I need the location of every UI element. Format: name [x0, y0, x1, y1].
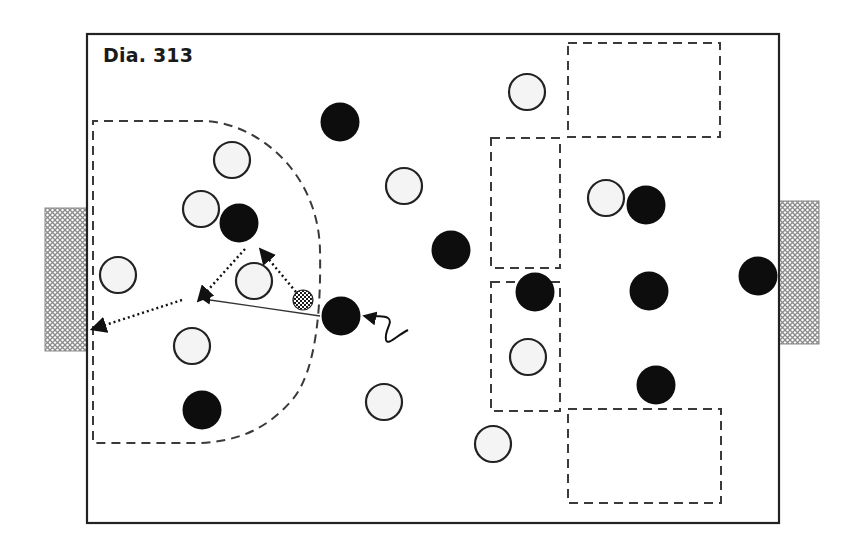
ball-icon [293, 290, 313, 310]
black-player-icon [321, 103, 360, 142]
white-player-icon [214, 142, 250, 178]
black-player-icon [183, 391, 222, 430]
white-player-icon [509, 74, 545, 110]
white-player-icon [386, 168, 422, 204]
white-player-icon [174, 328, 210, 364]
white-player-icon [366, 384, 402, 420]
black-player-icon [637, 366, 676, 405]
right-goal [779, 201, 819, 344]
white-player-icon [588, 180, 624, 216]
white-player-icon [100, 257, 136, 293]
white-player-icon [183, 191, 219, 227]
left-goal [45, 208, 87, 351]
diagram-title: Dia. 313 [103, 44, 193, 66]
white-player-icon [236, 263, 272, 299]
soccer-drill-diagram [0, 0, 865, 548]
black-player-icon [516, 273, 555, 312]
black-player-icon [630, 272, 669, 311]
black-player-icon [739, 257, 778, 296]
white-player-icon [475, 426, 511, 462]
black-player-icon [627, 186, 666, 225]
white-player-icon [510, 339, 546, 375]
field-boundary [87, 34, 779, 523]
black-player-icon [322, 297, 361, 336]
black-player-icon [220, 204, 259, 243]
black-player-icon [432, 231, 471, 270]
